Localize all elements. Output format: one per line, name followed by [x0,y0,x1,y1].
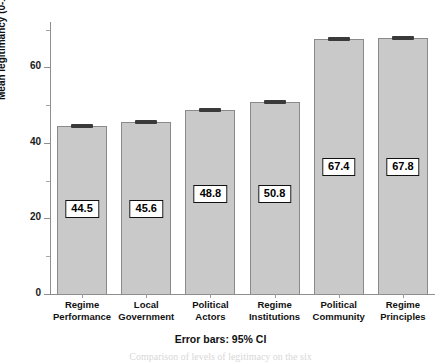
x-axis-labels: RegimePerformanceLocalGovernmentPolitica… [50,299,435,333]
error-bar [199,108,221,112]
x-axis-category-label: RegimeInstitutions [243,299,307,323]
figure-bar-chart-legitimacy: Mean legitimancy (0-100) 0204060 44.545.… [0,0,441,362]
bar-value-label: 45.6 [130,200,163,218]
x-axis-category-label-line: Principles [371,311,435,323]
error-bar [392,36,414,40]
x-axis-category-label: LocalGovernment [114,299,178,323]
bar-slot: 67.4 [314,22,364,294]
x-tick-mark [82,294,83,298]
x-axis-category-label-line: Regime [243,299,307,311]
bar-slot: 44.5 [57,22,107,294]
y-axis-title: Mean legitimancy (0-100) [0,0,7,100]
bar-value-label: 67.4 [322,158,355,176]
bar-slot: 67.8 [378,22,428,294]
x-tick-mark [275,294,276,298]
x-axis-category-label-line: Regime [371,299,435,311]
error-bar [264,100,286,104]
x-axis-category-label: PoliticalCommunity [307,299,371,323]
bar-value-label: 48.8 [194,185,227,203]
error-bar-footnote: Error bars: 95% CI [0,333,441,345]
x-axis-category-label: RegimePrinciples [371,299,435,323]
x-axis-category-label: RegimePerformance [50,299,114,323]
error-bar [71,124,93,128]
x-tick-mark [339,294,340,298]
x-axis-category-label-line: Actors [178,311,242,323]
error-bar [135,120,157,124]
y-tick-label: 0 [35,287,41,298]
bar-slot: 45.6 [121,22,171,294]
bar-value-label: 44.5 [65,200,98,218]
bar-slot: 50.8 [250,22,300,294]
x-axis-category-label-line: Political [178,299,242,311]
x-axis-category-label-line: Performance [50,311,114,323]
x-axis-category-label-line: Community [307,311,371,323]
bar-value-label: 50.8 [258,185,291,203]
x-axis-spine [50,294,435,295]
y-tick-label: 40 [30,136,41,147]
x-axis-category-label-line: Political [307,299,371,311]
x-axis-category-label-line: Government [114,311,178,323]
y-tick-label: 20 [30,211,41,222]
x-axis-category-label-line: Local [114,299,178,311]
clipped-caption-text: Comparison of levels of legitimacy on th… [0,351,441,362]
x-tick-mark [210,294,211,298]
y-tick-mark [44,294,50,295]
bar-slot: 48.8 [185,22,235,294]
x-axis-category-label: PoliticalActors [178,299,242,323]
error-bar [328,37,350,41]
x-axis-category-label-line: Institutions [243,311,307,323]
x-tick-mark [146,294,147,298]
x-tick-mark [403,294,404,298]
y-tick-label: 60 [30,60,41,71]
bar-series: 44.545.648.850.867.467.8 [50,22,435,294]
bar-value-label: 67.8 [386,158,419,176]
x-axis-category-label-line: Regime [50,299,114,311]
